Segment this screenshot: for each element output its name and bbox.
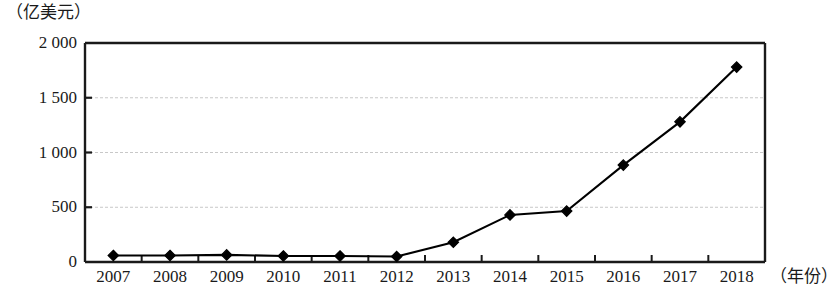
data-point-markers [108, 62, 742, 262]
y-axis-tick-label: 1 000 [7, 144, 77, 161]
y-axis-tick-label: 1 500 [7, 89, 77, 106]
gridlines-group [85, 98, 765, 208]
x-axis-tick-label: 2009 [196, 268, 258, 285]
x-axis-tick-label: 2008 [139, 268, 201, 285]
y-axis-tick-label: 2 000 [7, 34, 77, 51]
data-line [113, 67, 736, 256]
x-axis-tick-label: 2017 [649, 268, 711, 285]
y-axis-tick-label: 0 [7, 253, 77, 270]
x-axis-tick-label: 2014 [479, 268, 541, 285]
x-axis-tick-label: 2016 [592, 268, 654, 285]
x-axis-tick-label: 2010 [252, 268, 314, 285]
x-axis-tick-label: 2015 [536, 268, 598, 285]
x-axis-tick-label: 2012 [366, 268, 428, 285]
x-axis-tick-label: 2011 [309, 268, 371, 285]
y-axis-tick-label: 500 [7, 198, 77, 215]
x-axis-tick-label: 2018 [706, 268, 768, 285]
x-axis-tick-label: 2007 [82, 268, 144, 285]
x-axis-tick-label: 2013 [422, 268, 484, 285]
